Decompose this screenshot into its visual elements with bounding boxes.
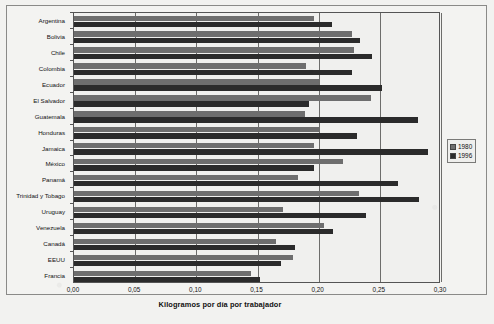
bar-1980-ecuador xyxy=(74,79,319,84)
bar-row xyxy=(74,93,439,109)
bar-1980-m-xico xyxy=(74,159,343,164)
x-tick-label-0,15: 0,15 xyxy=(250,286,262,293)
bar-1996-chile xyxy=(74,54,372,59)
bar-row xyxy=(74,29,439,45)
bar-1980-honduras xyxy=(74,127,319,132)
category-label-guatemala: Guatemala xyxy=(35,112,65,119)
category-label-el-salvador: El Salvador xyxy=(33,96,65,103)
bar-1996-m-xico xyxy=(74,165,314,170)
bar-row xyxy=(74,204,439,220)
x-tick-label-0,05: 0,05 xyxy=(128,286,140,293)
bar-row xyxy=(74,268,439,284)
bar-1980-uruguay xyxy=(74,207,283,212)
category-label-ecuador: Ecuador xyxy=(42,80,65,87)
category-label-argentina: Argentina xyxy=(39,16,66,23)
bar-1980-eeuu xyxy=(74,255,293,260)
bar-row xyxy=(74,45,439,61)
bar-1980-trinidad-y-tobago xyxy=(74,191,359,196)
bar-1996-panam- xyxy=(74,181,398,186)
bar-1996-trinidad-y-tobago xyxy=(74,197,419,202)
legend-item-1980: 1980 xyxy=(450,142,472,151)
bar-1980-chile xyxy=(74,47,354,52)
bar-1996-bolivia xyxy=(74,38,360,43)
category-axis: ArgentinaBoliviaChileColombiaEcuadorEl S… xyxy=(0,12,69,283)
category-label-bolivia: Bolivia xyxy=(47,32,65,39)
legend-item-1996: 1996 xyxy=(450,151,472,160)
legend-label-1996: 1996 xyxy=(458,151,472,160)
bar-1980-el-salvador xyxy=(74,95,371,100)
category-label-panam-: Panamá xyxy=(42,176,65,183)
bar-row xyxy=(74,188,439,204)
legend-swatch-1980 xyxy=(450,144,456,150)
bar-row xyxy=(74,220,439,236)
bar-1980-venezuela xyxy=(74,223,324,228)
bar-1980-francia xyxy=(74,271,251,276)
category-label-venezuela: Venezuela xyxy=(36,224,65,231)
bar-1996-el-salvador xyxy=(74,101,309,106)
bar-1996-guatemala xyxy=(74,117,418,122)
bar-1980-guatemala xyxy=(74,111,305,116)
plot-area xyxy=(73,12,440,283)
bar-1980-canad- xyxy=(74,239,276,244)
legend-swatch-1996 xyxy=(450,153,456,159)
bar-row xyxy=(74,156,439,172)
bar-chart: ArgentinaBoliviaChileColombiaEcuadorEl S… xyxy=(0,0,494,324)
bar-1996-canad- xyxy=(74,245,295,250)
bar-1996-francia xyxy=(74,277,260,282)
bar-row xyxy=(74,77,439,93)
x-tick-label-0,30: 0,30 xyxy=(434,286,446,293)
bar-1996-colombia xyxy=(74,70,352,75)
category-label-chile: Chile xyxy=(51,48,65,55)
bar-1980-bolivia xyxy=(74,31,352,36)
bar-row xyxy=(74,61,439,77)
legend: 1980 1996 xyxy=(447,139,476,163)
category-label-eeuu: EEUU xyxy=(48,256,65,263)
bar-row xyxy=(74,141,439,157)
bar-rows xyxy=(74,13,439,282)
bar-row xyxy=(74,13,439,29)
category-label-honduras: Honduras xyxy=(38,128,65,135)
x-tick-label-0,00: 0,00 xyxy=(67,286,79,293)
category-label-jamaica: Jamaica xyxy=(42,144,65,151)
x-tick-label-0,25: 0,25 xyxy=(373,286,385,293)
category-label-colombia: Colombia xyxy=(39,64,65,71)
category-label-canad-: Canadá xyxy=(43,240,65,247)
gridline-0,30 xyxy=(441,13,442,282)
bar-row xyxy=(74,125,439,141)
x-axis-title: Kilogramos por día por trabajador xyxy=(0,300,440,309)
bar-1996-argentina xyxy=(74,22,332,27)
legend-label-1980: 1980 xyxy=(458,142,472,151)
x-tick-label-0,20: 0,20 xyxy=(311,286,323,293)
bar-1996-jamaica xyxy=(74,149,428,154)
bar-1996-eeuu xyxy=(74,261,281,266)
bar-1980-argentina xyxy=(74,16,314,21)
bar-1996-venezuela xyxy=(74,229,333,234)
bar-1980-jamaica xyxy=(74,143,314,148)
bar-row xyxy=(74,252,439,268)
bar-row xyxy=(74,236,439,252)
category-label-uruguay: Uruguay xyxy=(42,208,65,215)
x-tick-label-0,10: 0,10 xyxy=(189,286,201,293)
category-label-trinidad-y-tobago: Trinidad y Tobago xyxy=(16,192,65,199)
bar-1996-honduras xyxy=(74,133,357,138)
bar-1980-colombia xyxy=(74,63,306,68)
category-label-francia: Francia xyxy=(44,272,65,279)
bar-row xyxy=(74,109,439,125)
bar-1996-ecuador xyxy=(74,85,382,90)
category-label-m-xico: México xyxy=(45,160,65,167)
bar-row xyxy=(74,172,439,188)
value-axis-ticks: 0,000,050,100,150,200,250,30 xyxy=(0,286,494,298)
bar-1980-panam- xyxy=(74,175,298,180)
bar-1996-uruguay xyxy=(74,213,366,218)
